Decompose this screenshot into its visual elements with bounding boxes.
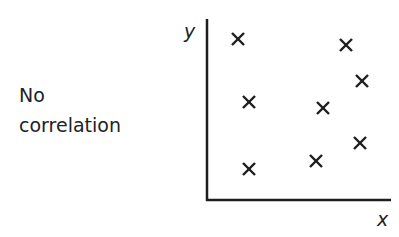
x-marker	[232, 33, 244, 45]
x-marker	[243, 163, 255, 175]
scatter-plot	[0, 0, 399, 237]
x-marker	[317, 102, 329, 114]
x-marker	[340, 39, 352, 51]
data-markers	[232, 33, 368, 175]
x-marker	[356, 75, 368, 87]
x-marker	[243, 96, 255, 108]
x-marker	[310, 155, 322, 167]
x-marker	[354, 137, 366, 149]
